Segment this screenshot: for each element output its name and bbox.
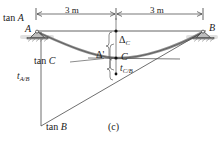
support-B-base: [193, 37, 214, 39]
tan-c-point: C: [49, 55, 56, 66]
support-A-hatching: [28, 39, 47, 42]
t-ab-subscript: A/B: [20, 75, 30, 82]
tan-a-point: A: [18, 12, 24, 23]
tan-c-prefix: tan: [34, 55, 49, 66]
dimension-label-left-span: 3 m: [65, 6, 79, 15]
dimension-label-right-span: 3 m: [150, 6, 164, 15]
point-label-a: A: [25, 24, 31, 34]
tan-c-label: tan C: [34, 56, 55, 66]
point-label-c: C: [121, 52, 128, 62]
t-cb-bracket: [107, 58, 113, 80]
support-A-base: [27, 37, 48, 39]
node-c-on-tanb: [115, 73, 118, 76]
tan-a-prefix: tan: [3, 12, 18, 23]
delta-c-label: ΔC: [119, 35, 130, 45]
tan-b-point: B: [61, 121, 67, 132]
t-cb-subscript: C/B: [123, 67, 133, 74]
tan-b-prefix: tan: [46, 121, 61, 132]
support-B-pin: [202, 30, 205, 33]
t-cb-label: tC/B: [120, 64, 133, 74]
support-A-pin: [36, 30, 39, 33]
tan-b-line: [41, 32, 203, 126]
delta-c-subscript: C: [125, 39, 130, 46]
beam-deflection-figure: 3 m 3 m tan A A B ΔC Δ' C tan C tC/B tA/…: [0, 0, 221, 142]
node-c: [114, 56, 117, 59]
node-center-top: [114, 29, 117, 32]
dimension-line-group: [36, 8, 203, 20]
t-ab-label: tA/B: [17, 72, 29, 82]
tan-a-label: tan A: [3, 13, 24, 23]
support-B-hatching: [194, 39, 213, 42]
tan-b-label: tan B: [46, 122, 67, 132]
delta-prime-label: Δ': [96, 50, 104, 60]
figure-caption: (c): [108, 122, 119, 132]
point-label-b: B: [209, 23, 215, 33]
